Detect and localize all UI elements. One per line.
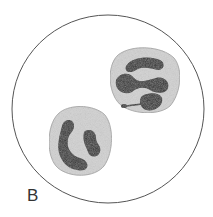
microscope-field-outline xyxy=(12,15,204,203)
panel-label: B xyxy=(27,186,38,206)
nucleus-drumstick xyxy=(121,104,127,108)
lower-left-cell xyxy=(49,107,112,176)
upper-right-cell xyxy=(110,48,180,113)
microscope-field-illustration xyxy=(0,0,213,217)
